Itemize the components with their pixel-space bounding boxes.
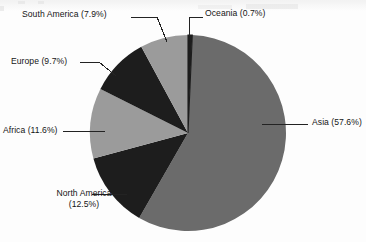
pie-label-north-america-line2: (12.5%) [69,199,99,209]
pie-label-asia: Asia (57.6%) [312,117,362,128]
pie-label-north-america-line1: North America [56,188,111,198]
pie-label-north-america: North America (12.5%) [41,188,127,210]
pie-label-oceania: Oceania (0.7%) [205,8,265,19]
pie-chart-figure: South America (7.9%) Oceania (0.7%) Euro… [0,0,366,242]
leader-line-oceania [189,17,203,36]
leader-line-south-america [131,17,167,42]
pie-label-europe: Europe (9.7%) [11,56,67,67]
pie-label-south-america: South America (7.9%) [22,9,107,20]
pie-label-africa: Africa (11.6%) [3,125,58,136]
